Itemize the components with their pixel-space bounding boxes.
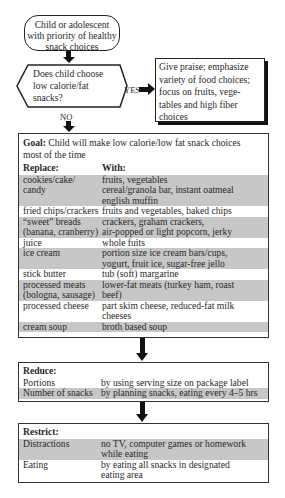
replace-cell: (bologna, sausage) xyxy=(23,290,102,301)
table-row: fried chips/crackers fruits and vegetabl… xyxy=(19,206,268,217)
reduce-panel: Reduce: Portions by using serving size o… xyxy=(18,362,269,402)
decision-line-2: low calorie/fat xyxy=(33,80,125,92)
table-row: processed meats(bologna, sausage) lower-… xyxy=(19,280,268,301)
praise-line-5: choices xyxy=(159,111,261,124)
reduce-title: Reduce: xyxy=(19,363,268,378)
with-cell: beef) xyxy=(102,290,264,301)
arrow-down-icon xyxy=(63,126,75,132)
with-cell: lower-fat meats (turkey ham, roast xyxy=(102,280,264,291)
restrict-method: while eating xyxy=(101,449,264,460)
praise-line-4: tables and high fiber xyxy=(159,99,261,112)
with-cell: tub (soft) margarine xyxy=(102,269,264,280)
with-cell: portion size ice cream bars/cups, xyxy=(102,248,264,259)
with-cell: fruits and vegetables, baked chips xyxy=(102,206,264,217)
praise-line-1: Give praise; emphasize xyxy=(159,61,261,74)
table-row: ice cream portion size ice cream bars/cu… xyxy=(19,248,268,269)
column-header-with: With: xyxy=(102,163,264,174)
goal-title: Goal: Child will make low calorie/low fa… xyxy=(19,134,268,162)
with-cell: air-popped or light popcorn, jerky xyxy=(102,227,264,238)
goal-text-line-2: most of the time xyxy=(23,149,86,160)
with-cell: cheeses xyxy=(102,311,264,322)
restrict-item: Distractions xyxy=(23,439,101,460)
arrow-down-icon xyxy=(136,353,148,361)
table-row: Number of snacks by planning snacks, eat… xyxy=(19,388,268,399)
table-row: cookies/cake/candy fruits, vegetablescer… xyxy=(19,175,268,207)
decision-line-1: Does child choose xyxy=(33,68,125,80)
column-header-replace: Replace: xyxy=(23,163,102,174)
reduce-item: Number of snacks xyxy=(23,388,101,399)
goal-text: Child will make low calorie/low fat snac… xyxy=(46,137,240,148)
arrow-down-icon xyxy=(136,414,148,422)
table-row: Eating by eating all snacks in designate… xyxy=(19,460,268,481)
with-cell: broth based soup xyxy=(102,322,264,333)
table-row: cream soup broth based soup xyxy=(19,322,268,333)
replace-cell: processed cheese xyxy=(23,301,102,312)
replace-cell: ice cream xyxy=(23,248,102,259)
restrict-panel: Restrict: Distractions no TV, computer g… xyxy=(18,423,269,483)
table-row: “sweet” breads(banana, cranberry) cracke… xyxy=(19,217,268,238)
decision-node: Does child choose low calorie/fat snacks… xyxy=(16,64,128,108)
praise-box: Give praise; emphasize variety of food c… xyxy=(155,58,265,122)
restrict-item: Eating xyxy=(23,460,101,481)
replace-cell: (banana, cranberry) xyxy=(23,227,102,238)
table-row: Distractions no TV, computer games or ho… xyxy=(19,439,268,460)
goal-header-row: Replace: With: xyxy=(19,162,268,175)
start-line-3: snack choices xyxy=(25,41,119,52)
arrow-right-icon xyxy=(148,83,155,95)
start-terminal: Child or adolescent with priority of hea… xyxy=(24,15,120,51)
decision-line-3: snacks? xyxy=(33,92,125,104)
goal-panel: Goal: Child will make low calorie/low fa… xyxy=(18,133,269,338)
decision-question: Does child choose low calorie/fat snacks… xyxy=(33,68,125,104)
replace-cell: candy xyxy=(23,185,102,196)
table-row: processed cheese part skim cheese, reduc… xyxy=(19,301,268,322)
reduce-method: by planning snacks, eating every 4–5 hrs xyxy=(101,388,264,399)
praise-line-3: focus on fruits, vege- xyxy=(159,86,261,99)
praise-line-2: variety of food choices; xyxy=(159,74,261,87)
goal-label: Goal: xyxy=(23,137,46,148)
restrict-method: eating area xyxy=(101,470,264,481)
start-line-1: Child or adolescent xyxy=(25,19,119,30)
with-cell: cereal/granola bar, instant oatmeal xyxy=(102,185,264,196)
arrow-goal-to-reduce xyxy=(140,338,145,354)
arrow-down-icon xyxy=(63,57,75,63)
start-line-2: with priority of healthy xyxy=(25,30,119,41)
table-row: stick butter tub (soft) margarine xyxy=(19,269,268,280)
replace-cell: stick butter xyxy=(23,269,102,280)
restrict-title: Restrict: xyxy=(19,424,268,439)
yes-label: YES xyxy=(124,85,140,95)
replace-cell: fried chips/crackers xyxy=(23,206,102,217)
replace-cell: cream soup xyxy=(23,322,102,333)
